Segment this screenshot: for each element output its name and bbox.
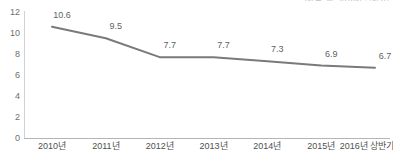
y-axis-tick-label: 2 — [2, 113, 20, 122]
x-axis-tick-label: 2010년 — [38, 142, 66, 151]
x-axis-line — [24, 138, 390, 139]
series-line — [52, 27, 375, 68]
x-axis-tick-label: 2013년 — [199, 142, 227, 151]
y-axis-tick-label: 12 — [2, 8, 20, 17]
line-chart: (단위: %, 2016년 상반기) 024681012 10.69.57.77… — [0, 0, 393, 157]
data-point-label: 9.5 — [110, 22, 123, 31]
y-axis: 024681012 — [0, 0, 20, 157]
x-axis-tick-label: 2015년 — [307, 142, 335, 151]
chart-unit-note: (단위: %, 2016년 상반기) — [305, 0, 389, 1]
data-point-label: 7.7 — [217, 41, 230, 50]
y-axis-tick-label: 10 — [2, 29, 20, 38]
y-axis-tick-label: 6 — [2, 71, 20, 80]
x-axis-tick-label: 2012년 — [146, 142, 174, 151]
series-line-svg — [24, 12, 389, 138]
x-axis-tick-label: 2011년 — [92, 142, 119, 151]
data-point-label: 6.9 — [325, 50, 338, 59]
data-point-label: 10.6 — [53, 11, 71, 20]
data-point-label: 6.7 — [379, 52, 392, 61]
x-axis: 2010년2011년2012년2013년2014년2015년2016년 상반기 — [0, 142, 393, 157]
y-axis-tick-label: 4 — [2, 92, 20, 101]
x-axis-tick-label: 2014년 — [253, 142, 281, 151]
data-point-label: 7.7 — [163, 41, 176, 50]
plot-area — [24, 12, 389, 138]
data-point-label: 7.3 — [271, 45, 284, 54]
x-axis-tick-label: 2016년 상반기 — [340, 142, 393, 151]
y-axis-tick-label: 8 — [2, 50, 20, 59]
